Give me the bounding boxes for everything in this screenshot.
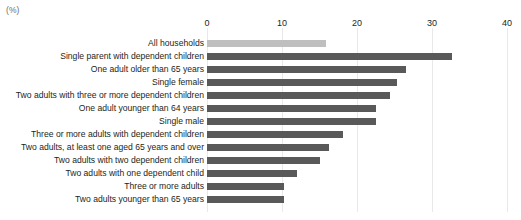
bar-row: Two adults with three or more dependent … xyxy=(0,89,521,102)
bar-row: Two adults with two dependent children xyxy=(0,154,521,167)
bar xyxy=(207,79,397,86)
bar xyxy=(207,53,452,60)
bar xyxy=(207,92,390,99)
bar xyxy=(207,66,406,73)
bar xyxy=(207,144,329,151)
category-label: Single parent with dependent children xyxy=(60,50,204,63)
bar-row: Single female xyxy=(0,76,521,89)
bar-row: Three or more adults xyxy=(0,180,521,193)
horizontal-bar-chart: (%) 010203040 All householdsSingle paren… xyxy=(0,0,521,220)
bar xyxy=(207,170,297,177)
bar-row: Single parent with dependent children xyxy=(0,50,521,63)
category-label: All households xyxy=(148,37,204,50)
bar-row: One adult younger than 64 years xyxy=(0,102,521,115)
bar xyxy=(207,157,320,164)
category-label: Two adults, at least one aged 65 years a… xyxy=(21,141,204,154)
category-label: Three or more adults xyxy=(124,180,204,193)
category-label: Three or more adults with dependent chil… xyxy=(31,128,204,141)
bar-row: Two adults younger than 65 years xyxy=(0,193,521,206)
category-label: Two adults younger than 65 years xyxy=(75,193,204,206)
bar-row: Three or more adults with dependent chil… xyxy=(0,128,521,141)
category-label: Single female xyxy=(152,76,204,89)
bar-row: Single male xyxy=(0,115,521,128)
bar-rows: All householdsSingle parent with depende… xyxy=(0,0,521,220)
bar-row: Two adults, at least one aged 65 years a… xyxy=(0,141,521,154)
category-label: Two adults with three or more dependent … xyxy=(16,89,204,102)
bar xyxy=(207,196,284,203)
category-label: One adult older than 65 years xyxy=(91,63,204,76)
bar xyxy=(207,40,326,47)
bar-row: One adult older than 65 years xyxy=(0,63,521,76)
bar-row: Two adults with one dependent child xyxy=(0,167,521,180)
category-label: Two adults with one dependent child xyxy=(65,167,204,180)
category-label: One adult younger than 64 years xyxy=(79,102,204,115)
category-label: Two adults with two dependent children xyxy=(54,154,204,167)
bar xyxy=(207,118,376,125)
bar xyxy=(207,131,343,138)
bar-row: All households xyxy=(0,37,521,50)
bar xyxy=(207,105,376,112)
bar xyxy=(207,183,284,190)
category-label: Single male xyxy=(159,115,204,128)
